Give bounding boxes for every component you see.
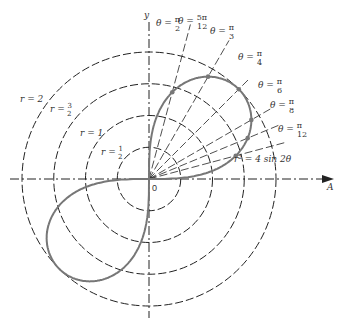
- circle-label-r1-2: r = 12: [101, 145, 123, 161]
- ray-label-22.5: θ = π8: [270, 97, 294, 115]
- point-30: [249, 118, 254, 123]
- point-22.5: [245, 136, 250, 141]
- ray-label-75: θ = 5π12: [178, 13, 207, 31]
- ray-label-90: θ = π2: [156, 15, 180, 33]
- point-45: [237, 87, 242, 92]
- point-60: [206, 74, 211, 79]
- circle-label-r1: r = 1: [80, 128, 103, 138]
- point-75: [170, 90, 175, 95]
- ray-label-30: θ = π6: [258, 77, 282, 95]
- ray-label-15: θ = π12: [278, 121, 307, 139]
- origin-label: 0: [152, 183, 157, 193]
- ray-75: [149, 24, 190, 179]
- x-axis-label: A: [326, 182, 334, 192]
- circle-label-r3-2: r = 32: [50, 102, 72, 118]
- polar-plot: y A 0 r² = 4 sin 2θ r = 2 r = 32 r = 1 r…: [0, 0, 339, 322]
- ray-label-60: θ = π3: [210, 23, 234, 41]
- circle-label-r2: r = 2: [20, 94, 44, 104]
- axes: [10, 22, 334, 318]
- equation-label: r² = 4 sin 2θ: [234, 154, 292, 164]
- lemniscate-diagram: y A 0 r² = 4 sin 2θ r = 2 r = 32 r = 1 r…: [0, 0, 339, 322]
- ray-45: [149, 80, 248, 179]
- y-axis-label: y: [143, 10, 150, 20]
- ray-label-45: θ = π4: [238, 49, 262, 67]
- labels: y A 0 r² = 4 sin 2θ r = 2 r = 32 r = 1 r…: [20, 10, 334, 193]
- ray-60: [149, 40, 229, 179]
